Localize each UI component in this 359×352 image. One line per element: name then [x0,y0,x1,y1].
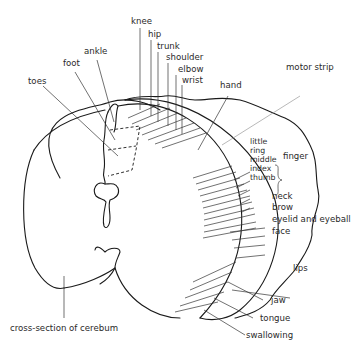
label-motor-strip: motor strip [286,62,334,72]
hatch-middle [193,166,256,238]
motor-strip-inner-edge [118,104,242,318]
label-ankle: ankle [84,46,107,56]
label-brow: brow [272,202,293,212]
label-face: face [272,226,290,236]
diagram-canvas: knee hip trunk shoulder elbow wrist ankl… [0,0,359,352]
label-foot: foot [63,58,81,68]
label-shoulder: shoulder [166,52,204,62]
label-middle: middle [250,155,277,164]
label-knee: knee [131,16,152,26]
ventricle-left [94,183,118,227]
label-wrist: wrist [182,75,203,85]
brain-diagram: knee hip trunk shoulder elbow wrist ankl… [0,0,359,352]
label-elbow: elbow [178,64,203,74]
label-neck: neck [272,191,292,201]
label-lips: lips [293,263,308,273]
lower-notch [95,247,120,284]
label-jaw: jaw [270,295,286,305]
label-ring: ring [250,146,265,155]
label-toes: toes [28,76,47,86]
label-hip: hip [148,29,161,39]
label-swallowing: swallowing [246,330,293,340]
label-eyelid: eyelid and eyeball [272,214,351,224]
label-cerebrum: cross-section of cerebum [10,323,118,333]
cerebrum-top-arc [34,110,105,150]
label-index: index [250,164,272,173]
motor-strip-outer-edge [125,99,278,320]
label-thumb: thumb [250,173,276,182]
label-hand: hand [220,80,242,90]
cerebrum-left-edge [24,150,64,288]
label-trunk: trunk [157,41,180,51]
label-tongue: tongue [260,313,290,323]
cerebrum-bottom-right [115,268,180,318]
fissure [103,112,108,184]
hatch-top [128,104,206,148]
label-little: little [250,137,268,146]
label-finger: finger [283,151,309,161]
